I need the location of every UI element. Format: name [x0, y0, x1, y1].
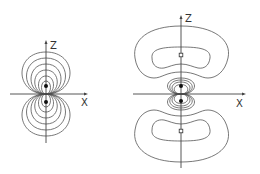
left-x-arrow-icon	[84, 93, 88, 96]
right-upper-outer-lobe	[135, 26, 229, 78]
right-x-label: X	[236, 98, 243, 109]
left-lower-dot	[44, 100, 48, 104]
right-upper-square-marker	[179, 53, 183, 57]
left-z-arrow-icon	[45, 40, 48, 44]
left-figure: Z X	[10, 40, 88, 143]
right-lower-dot	[179, 99, 183, 103]
left-upper-dot	[44, 84, 48, 88]
right-lower-outer-lobe	[135, 110, 229, 162]
orbital-contour-diagram: Z X	[0, 0, 260, 174]
right-lower-square-marker	[179, 129, 183, 133]
right-x-arrow-icon	[242, 93, 246, 96]
left-z-label: Z	[50, 40, 57, 51]
right-z-label: Z	[185, 13, 192, 24]
right-z-arrow-icon	[180, 15, 183, 19]
right-upper-dot	[179, 84, 183, 88]
right-figure: Z X	[133, 13, 246, 168]
left-x-label: X	[81, 97, 88, 108]
